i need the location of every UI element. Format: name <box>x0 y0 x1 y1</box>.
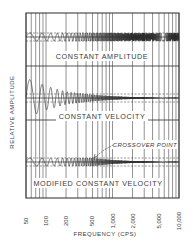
x-tick-label: 100 <box>43 215 49 226</box>
crossover-arrow-icon <box>94 154 98 158</box>
x-tick-labels: 501002005001,0002,0005,00010,000 <box>23 211 182 230</box>
x-tick-label: 5,000 <box>156 213 162 229</box>
crossover-point-annotation: CROSSOVER POINT <box>113 142 178 148</box>
panel-label-constant-amplitude: CONSTANT AMPLITUDE <box>56 52 148 61</box>
frequency-response-chart: CONSTANT AMPLITUDE CONSTANT VELOCITY MOD… <box>0 0 195 246</box>
x-tick-label: 50 <box>23 217 29 224</box>
panel-label-constant-velocity: CONSTANT VELOCITY <box>59 112 146 121</box>
x-tick-label: 1,000 <box>110 213 116 229</box>
x-axis-label: FREQUENCY (CPS) <box>73 231 136 237</box>
y-axis-label: RELATIVE AMPLITUDE <box>9 75 15 148</box>
x-tick-label: 2,000 <box>130 213 136 229</box>
panel-label-modified-constant-velocity: MODIFIED CONSTANT VELOCITY <box>33 179 162 188</box>
x-tick-label: 10,000 <box>176 211 182 230</box>
x-tick-label: 500 <box>89 215 95 226</box>
x-tick-label: 200 <box>63 215 69 226</box>
